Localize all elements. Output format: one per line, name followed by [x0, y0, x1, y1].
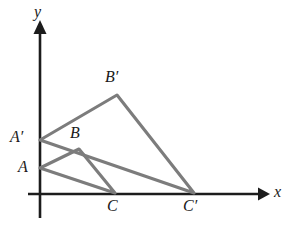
- vertex-label-c-prime: C′: [183, 198, 197, 214]
- y-axis-label: y: [34, 4, 41, 20]
- triangle-abc: [40, 149, 115, 193]
- vertex-label-b-prime: B′: [105, 69, 118, 85]
- vertex-label-a-prime: A′: [10, 129, 23, 145]
- geometry-figure: y x A B C A′ B′ C′: [0, 0, 290, 225]
- triangle-abc-outline: [40, 149, 115, 193]
- vertex-label-a: A: [18, 159, 28, 175]
- x-axis-arrowhead: [258, 188, 270, 201]
- x-axis-label: x: [274, 184, 281, 200]
- figure-canvas: [0, 0, 290, 225]
- vertex-label-b: B: [70, 125, 80, 141]
- vertex-label-c: C: [107, 198, 118, 214]
- axes-group: [28, 20, 270, 218]
- triangle-a-prime-b-prime-c-prime-outline: [40, 95, 194, 193]
- y-axis-arrowhead: [34, 20, 47, 34]
- triangle-a-prime-b-prime-c-prime: [40, 95, 194, 193]
